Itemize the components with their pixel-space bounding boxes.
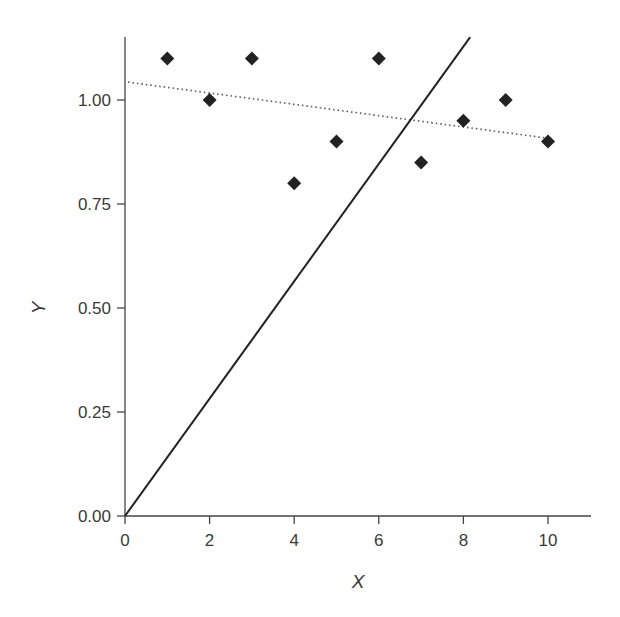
y-tick-label: 0.75 [78, 195, 111, 214]
x-tick-label: 2 [205, 531, 214, 550]
diamond-marker [330, 135, 344, 149]
diamond-marker [414, 155, 428, 169]
y-tick-label: 0.25 [78, 403, 111, 422]
scatter-chart: 0.000.250.500.751.000246810XY [0, 0, 620, 617]
data-points [160, 51, 555, 190]
x-tick-label: 0 [120, 531, 129, 550]
x-tick-label: 4 [289, 531, 298, 550]
diamond-marker [160, 51, 174, 65]
y-axis-title: Y [28, 300, 49, 314]
diamond-marker [287, 176, 301, 190]
dotted-fit-line [128, 82, 545, 138]
axes [117, 37, 591, 524]
diamond-marker [372, 51, 386, 65]
y-tick-label: 1.00 [78, 91, 111, 110]
diamond-marker [541, 135, 555, 149]
diamond-marker [203, 93, 217, 107]
x-tick-label: 8 [459, 531, 468, 550]
y-tick-label: 0.50 [78, 299, 111, 318]
axis-labels: 0.000.250.500.751.000246810XY [28, 91, 557, 592]
diamond-marker [499, 93, 513, 107]
x-axis-title: X [351, 571, 366, 592]
solid-line [125, 37, 470, 516]
plot-lines [125, 37, 545, 516]
y-tick-label: 0.00 [78, 507, 111, 526]
x-tick-label: 6 [374, 531, 383, 550]
x-tick-label: 10 [539, 531, 558, 550]
diamond-marker [245, 51, 259, 65]
